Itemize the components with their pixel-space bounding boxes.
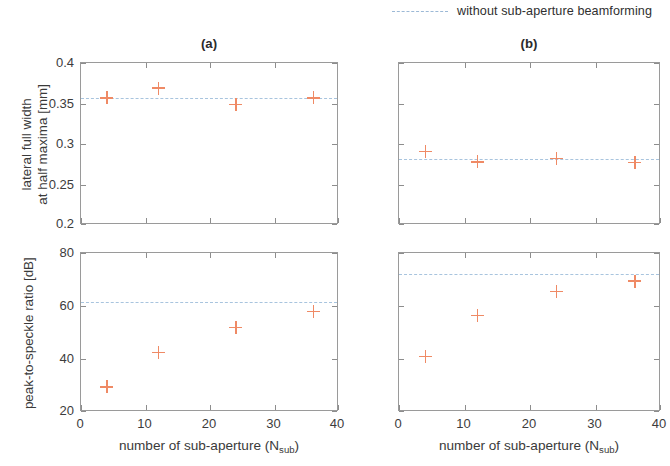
tick-label-x: 40 (652, 416, 666, 431)
tick-y (332, 104, 337, 105)
tick-y (654, 104, 659, 105)
tick-x (275, 63, 276, 68)
panel-title-a: (a) (80, 36, 338, 51)
tick-label-x: 20 (202, 416, 216, 431)
plot-b-top (398, 62, 660, 224)
data-point (419, 350, 432, 363)
data-point (229, 98, 242, 111)
plot-b-top-area (399, 63, 659, 223)
tick-y (654, 185, 659, 186)
tick-y (332, 253, 337, 254)
tick-y (399, 63, 404, 64)
tick-label-y: 0.25 (29, 176, 74, 191)
data-point (152, 346, 165, 359)
data-point (229, 321, 242, 334)
tick-y (332, 359, 337, 360)
tick-x (275, 218, 276, 223)
tick-y (654, 253, 659, 254)
data-point (100, 380, 113, 393)
figure-root: without sub-aperture beamforming (a) (b)… (0, 0, 670, 466)
data-point (628, 275, 641, 288)
tick-y (399, 306, 404, 307)
tick-x (210, 253, 211, 258)
tick-y (399, 224, 404, 225)
tick-y (399, 253, 404, 254)
plot-b-bottom (398, 252, 660, 411)
data-point (471, 155, 484, 168)
tick-y (399, 104, 404, 105)
tick-y (332, 306, 337, 307)
plot-a-bottom (80, 252, 338, 411)
tick-label-x: 20 (522, 416, 536, 431)
tick-x (146, 253, 147, 258)
tick-label-y: 40 (36, 351, 74, 366)
data-point (307, 305, 320, 318)
tick-x (399, 405, 400, 410)
tick-y (654, 411, 659, 412)
legend-dashed-line-icon (392, 11, 448, 12)
reference-line-b-bottom (399, 274, 659, 275)
reference-line-a-top (81, 98, 337, 99)
tick-x (530, 253, 531, 258)
x-axis-label-b-main: number of sub-aperture (N (439, 438, 599, 453)
plot-b-bottom-area (399, 253, 659, 410)
x-axis-label-b: number of sub-aperture (Nsub) (398, 438, 660, 455)
tick-x (596, 63, 597, 68)
tick-x (146, 218, 147, 223)
x-axis-label-a-main: number of sub-aperture (N (119, 438, 279, 453)
tick-label-x: 40 (330, 416, 344, 431)
tick-x (338, 218, 339, 223)
tick-y (81, 104, 86, 105)
tick-label-x: 30 (266, 416, 280, 431)
tick-y (332, 185, 337, 186)
tick-x (146, 405, 147, 410)
tick-y (332, 411, 337, 412)
plot-a-top (80, 62, 338, 224)
tick-x (210, 405, 211, 410)
tick-x (596, 253, 597, 258)
data-point (471, 309, 484, 322)
tick-y (332, 224, 337, 225)
tick-label-x: 30 (587, 416, 601, 431)
x-axis-label-b-close: ) (615, 438, 620, 453)
tick-x (399, 218, 400, 223)
plot-a-top-area (81, 63, 337, 223)
tick-label-y: 0.4 (34, 55, 74, 70)
tick-y (81, 306, 86, 307)
tick-y (81, 253, 86, 254)
tick-x (465, 253, 466, 258)
tick-x (660, 218, 661, 223)
tick-x (338, 405, 339, 410)
tick-y (654, 224, 659, 225)
tick-label-y: 80 (36, 245, 74, 260)
tick-y (81, 185, 86, 186)
reference-line-a-bottom (81, 302, 337, 303)
tick-label-y: 0.35 (29, 95, 74, 110)
tick-x (596, 405, 597, 410)
tick-x (465, 405, 466, 410)
tick-x (530, 405, 531, 410)
tick-label-x: 10 (456, 416, 470, 431)
tick-x (275, 253, 276, 258)
tick-y (654, 144, 659, 145)
x-axis-label-a-sub: sub (279, 444, 294, 455)
tick-label-y: 20 (36, 403, 74, 418)
reference-line-b-top (399, 159, 659, 160)
tick-x (465, 218, 466, 223)
tick-label-y: 0.2 (34, 216, 74, 231)
tick-x (146, 63, 147, 68)
tick-y (654, 359, 659, 360)
tick-x (81, 405, 82, 410)
tick-y (654, 63, 659, 64)
tick-x (530, 218, 531, 223)
tick-y (332, 144, 337, 145)
tick-y (399, 411, 404, 412)
tick-x (81, 218, 82, 223)
legend: without sub-aperture beamforming (392, 2, 652, 20)
tick-y (81, 144, 86, 145)
tick-y (399, 359, 404, 360)
tick-label-x: 0 (394, 416, 401, 431)
tick-x (210, 218, 211, 223)
data-point (628, 156, 641, 169)
tick-label-x: 0 (76, 416, 83, 431)
